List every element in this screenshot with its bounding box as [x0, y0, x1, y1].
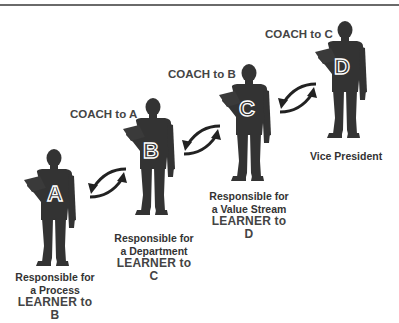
role-line1-a: Responsible for — [12, 271, 98, 284]
role-line1-c: Responsible for — [206, 190, 292, 203]
role-block-b: Responsible for a Department LEARNER to … — [112, 232, 196, 282]
letter-a: A — [47, 181, 63, 206]
coach-label-d: COACH to C — [265, 28, 333, 40]
bidirectional-arrows-a-b-icon — [88, 169, 127, 197]
learner-label-b: LEARNER to C — [112, 257, 196, 282]
role-line1-b: Responsible for — [112, 232, 196, 245]
learner-label-a: LEARNER to B — [12, 296, 98, 321]
coach-label-b: COACH to A — [70, 108, 137, 120]
role-block-c: Responsible for a Value Stream LEARNER t… — [206, 190, 292, 240]
bidirectional-arrows-b-c-icon — [182, 126, 221, 154]
title-d: Vice President — [310, 150, 382, 162]
bidirectional-arrows-c-d-icon — [278, 84, 317, 112]
figure-a — [24, 149, 76, 266]
letter-c: C — [239, 96, 255, 121]
learner-label-c: LEARNER to D — [206, 215, 292, 240]
letter-b: B — [143, 138, 159, 163]
role-block-a: Responsible for a Process LEARNER to B — [12, 271, 98, 321]
figure-c — [219, 64, 271, 181]
coach-label-c: COACH to B — [168, 68, 236, 80]
letter-d: D — [334, 54, 350, 79]
